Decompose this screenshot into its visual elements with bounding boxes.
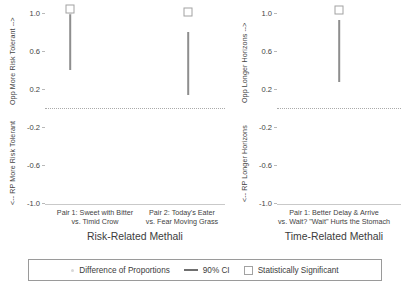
legend-item-statistically-significant: Statistically Significant	[244, 266, 339, 275]
y-tick-label-4: -0.2	[246, 123, 272, 132]
x-axis-line	[277, 204, 401, 205]
legend-label: 90% CI	[203, 266, 230, 275]
panel-title-risk: Risk-Related Methali	[45, 231, 225, 242]
y-tick-label-5: -0.6	[246, 161, 272, 170]
y-tick-label-6: -1.0	[246, 199, 272, 208]
x-axis-line	[45, 204, 225, 205]
statistically-significant-marker	[66, 5, 75, 14]
y-tick-label-3: 0.2	[14, 85, 40, 94]
panel-title-time: Time-Related Methali	[267, 231, 401, 242]
zero-reference-line	[45, 108, 225, 109]
y-tick-label-1: 1.0	[14, 9, 40, 18]
y-tick-label-1: 1.0	[246, 9, 272, 18]
y-tick-label-3: 0.2	[246, 85, 272, 94]
line-marker-icon	[184, 269, 198, 271]
panel-time-related: Opp Longer Horizons --> <-- RP Longer Ho…	[232, 0, 406, 250]
chart-canvas: Opp More Risk Tolerant --> <-- RP More R…	[0, 0, 406, 285]
legend-item-difference-of-proportions: Difference of Proportions	[71, 266, 169, 275]
panel-risk-related: Opp More Risk Tolerant --> <-- RP More R…	[0, 0, 232, 250]
x-axis-category-label-pair1: Pair 1: Better Delay & Arrive vs. Wait? …	[263, 208, 405, 227]
y-tick-label-2: 0.6	[14, 47, 40, 56]
chart-legend: Difference of Proportions 90% CI Statist…	[28, 259, 382, 281]
x-axis-category-label-pair2: Pair 2: Today's Eater vs. Fear Moving Gr…	[133, 208, 231, 227]
zero-reference-line	[277, 108, 401, 109]
plot-area-risk	[45, 0, 225, 204]
x-axis-category-label-pair1: Pair 1: Sweet with Bitter vs. Timid Crow	[45, 208, 145, 227]
y-tick-label-4: -0.2	[14, 123, 40, 132]
legend-item-confidence-interval: 90% CI	[184, 266, 230, 275]
statistically-significant-marker	[335, 6, 344, 15]
confidence-interval-bar	[187, 32, 189, 95]
y-tick-label-5: -0.6	[14, 161, 40, 170]
y-tick-label-2: 0.6	[246, 47, 272, 56]
plot-area-time	[277, 0, 401, 204]
y-tick-label-6: -1.0	[14, 199, 40, 208]
legend-label: Statistically Significant	[258, 266, 339, 275]
legend-label: Difference of Proportions	[79, 266, 169, 275]
dot-marker-icon	[71, 269, 74, 272]
statistically-significant-marker	[184, 8, 193, 17]
confidence-interval-bar	[338, 20, 340, 82]
confidence-interval-bar	[69, 13, 71, 70]
square-marker-icon	[244, 266, 253, 275]
